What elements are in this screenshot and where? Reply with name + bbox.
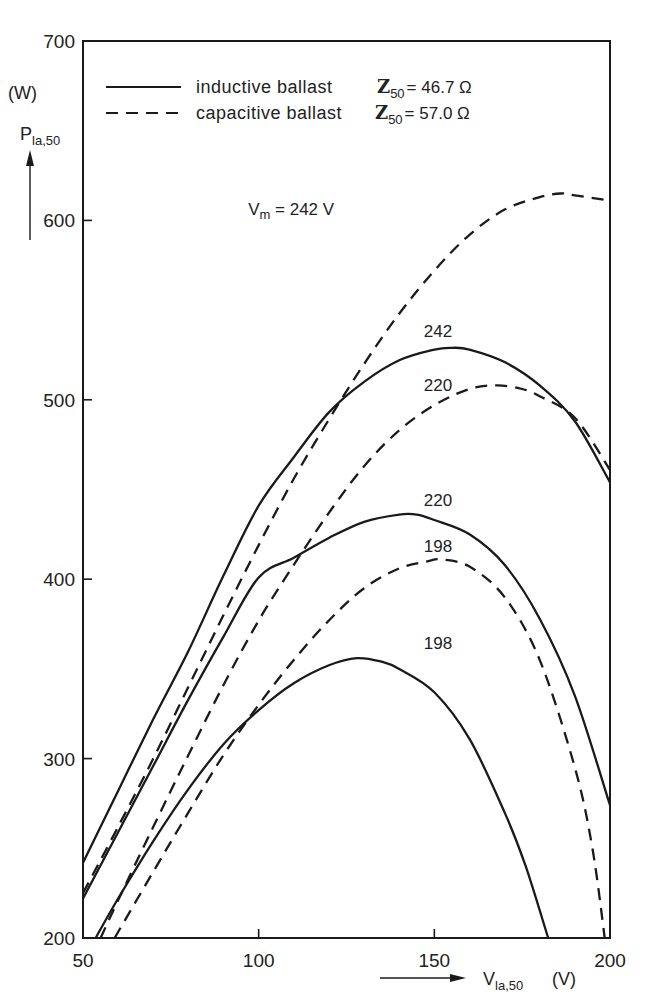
- y-axis-unit: (W): [8, 83, 37, 103]
- legend-label: inductive ballast: [196, 77, 333, 97]
- curve-label-inductive-198: 198: [424, 634, 452, 653]
- legend-z-value: = 57.0 Ω: [405, 104, 470, 123]
- y-tick-label: 700: [43, 31, 75, 52]
- x-tick-label: 100: [243, 950, 275, 971]
- legend-z-value: = 46.7 Ω: [407, 78, 472, 97]
- y-tick-label: 400: [43, 569, 75, 590]
- legend-z-sub: 50: [390, 86, 404, 101]
- curve-label-capacitive-220: 220: [424, 376, 452, 395]
- series-line-capacitive-220: [101, 385, 610, 938]
- x-axis-label: Vla,50: [483, 969, 523, 993]
- y-tick-label: 500: [43, 390, 75, 411]
- legend-z-symbol: Z: [375, 102, 388, 123]
- legend: inductive ballast Z50= 46.7 Ω capacitive…: [106, 76, 472, 127]
- curve-label-capacitive-198: 198: [424, 537, 452, 556]
- x-tick-label: 200: [594, 950, 626, 971]
- legend-entry-capacitive: capacitive ballast Z50= 57.0 Ω: [106, 102, 470, 127]
- curve-label-inductive-242: 242: [424, 322, 452, 341]
- x-axis-main: V: [483, 969, 495, 989]
- legend-z-symbol: Z: [377, 76, 390, 97]
- plot-frame: [83, 41, 610, 938]
- x-axis-arrowhead: [450, 974, 466, 982]
- y-axis-label: Pla,50: [20, 124, 60, 148]
- x-tick-label: 50: [72, 950, 93, 971]
- y-axis-sub: la,50: [32, 133, 60, 148]
- x-tick-label: 150: [418, 950, 450, 971]
- y-tick-label: 300: [43, 749, 75, 770]
- y-axis-main: P: [20, 124, 32, 144]
- legend-impedance: Z50= 57.0 Ω: [375, 102, 470, 127]
- series-line-inductive-220: [83, 514, 610, 899]
- series-line-capacitive-242: [83, 193, 610, 893]
- x-axis-sub: la,50: [495, 978, 523, 993]
- y-axis-arrowhead: [26, 150, 34, 166]
- legend-label: capacitive ballast: [196, 103, 342, 123]
- y-tick-label: 200: [43, 928, 75, 949]
- y-tick-label: 600: [43, 210, 75, 231]
- curve-label-capacitive-242: Vm = 242 V: [248, 200, 335, 222]
- legend-impedance: Z50= 46.7 Ω: [377, 76, 472, 101]
- curve-label-inductive-220: 220: [424, 491, 452, 510]
- chart: 20030040050060070050100150200 242220198V…: [0, 0, 646, 1007]
- legend-entry-inductive: inductive ballast Z50= 46.7 Ω: [106, 76, 472, 101]
- x-axis-title: Vla,50 (V): [380, 969, 576, 993]
- legend-z-sub: 50: [388, 112, 402, 127]
- x-axis-unit: (V): [552, 969, 576, 989]
